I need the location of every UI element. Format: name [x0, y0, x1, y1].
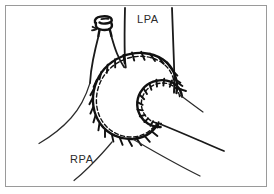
outer-arc-stitches [89, 52, 181, 146]
stump-descending-wall [90, 36, 124, 83]
distal-branch-stub [180, 95, 203, 112]
label-lpa: LPA [137, 13, 159, 25]
stump-tie-top [95, 16, 112, 23]
anatomical-diagram-canvas: .ink-thick { fill:none; stroke:#111111; … [0, 0, 274, 194]
stump-ligature-tail-lower [92, 29, 96, 30]
rpa-trunk [39, 83, 112, 181]
stump-inner-lumen [101, 19, 108, 20]
inner-suture-arc [137, 79, 186, 128]
distal-branch-lower [134, 140, 201, 177]
figure-root: .ink-thick { fill:none; stroke:#111111; … [0, 0, 274, 194]
label-rpa: RPA [70, 153, 94, 165]
oversewn-stump [92, 16, 112, 36]
stump-wall-left [90, 36, 98, 83]
distal-branch-upper [160, 124, 224, 151]
stump-neck-right [110, 29, 112, 36]
outer-suture-arc [89, 52, 181, 146]
stump-neck-left [98, 30, 99, 37]
rpa-wall-upper [39, 83, 90, 144]
